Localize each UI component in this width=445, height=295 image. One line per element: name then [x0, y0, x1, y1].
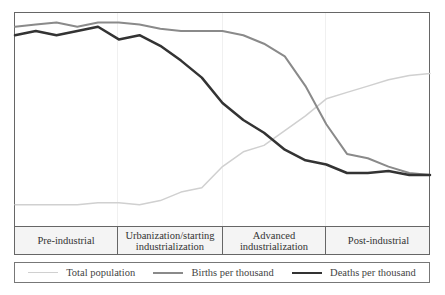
chart-legend: Total population Births per thousand Dea…: [14, 262, 430, 283]
stage-advanced-industrialization: Advanced industrialization: [223, 227, 326, 254]
stage-table: Pre-industrial Urbanization/starting ind…: [14, 226, 430, 255]
stage-post-industrial: Post-industrial: [326, 227, 431, 254]
legend-total-population: Total population: [28, 267, 135, 278]
legend-births: Births per thousand: [153, 267, 273, 278]
legend-label: Births per thousand: [191, 267, 273, 278]
stage-guides: [118, 13, 326, 226]
stage-pre-industrial: Pre-industrial: [15, 227, 118, 254]
legend-swatch-icon: [292, 272, 322, 274]
legend-swatch-icon: [153, 272, 183, 274]
legend-swatch-icon: [28, 272, 58, 273]
legend-deaths: Deaths per thousand: [292, 267, 416, 278]
legend-label: Deaths per thousand: [330, 267, 416, 278]
legend-label: Total population: [66, 267, 135, 278]
stage-urbanization: Urbanization/starting industrialization: [118, 227, 223, 254]
